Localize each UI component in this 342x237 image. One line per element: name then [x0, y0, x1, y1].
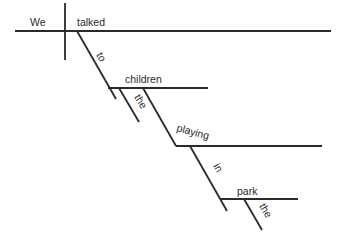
article-the-1-line	[119, 88, 139, 122]
word-object-park: park	[237, 185, 258, 197]
word-participle-playing: playing	[175, 121, 210, 141]
word-preposition-in: in	[211, 161, 226, 174]
preposition-in-line	[190, 146, 227, 211]
word-article-the-2: the	[257, 201, 275, 220]
word-object-children: children	[125, 73, 162, 85]
participle-playing-diagonal	[143, 88, 176, 146]
word-subject: We	[30, 16, 46, 28]
sentence-diagram: We talked to children the playing in par…	[0, 0, 342, 237]
article-the-2-line	[244, 199, 262, 230]
word-preposition-to: to	[94, 50, 109, 64]
word-verb: talked	[77, 16, 105, 28]
